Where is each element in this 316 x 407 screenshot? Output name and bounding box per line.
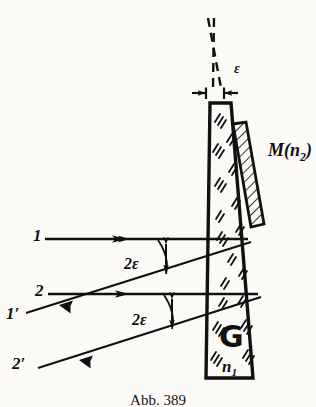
- ray-label-1: 1: [33, 227, 42, 244]
- ray-label-2: 2: [35, 282, 44, 299]
- index-subscript: 1: [231, 366, 237, 378]
- apex-angle-label: ε: [234, 62, 240, 76]
- ray-label-2-prime: 2′: [12, 355, 25, 372]
- angle-marker-lower: [164, 295, 173, 329]
- mirror-label: M(n2): [268, 141, 312, 163]
- mirror-label-close: ): [306, 140, 312, 160]
- ray-label-1-prime: 1′: [6, 305, 19, 322]
- figure-caption: Abb. 389: [0, 392, 316, 407]
- refractive-index-label: n1: [222, 358, 237, 379]
- apex-dimension-arrows: [192, 88, 238, 100]
- ray-direction-arrows: [59, 235, 129, 368]
- mirror-label-main: M(n: [268, 140, 300, 160]
- glass-label-G: G: [219, 322, 244, 352]
- figure-container: ε M(n2) 1 2 1′ 2′ 2ε 2ε G n1 Abb. 389: [0, 0, 316, 407]
- apex-construction-lines: [208, 18, 221, 88]
- optics-diagram: [0, 0, 316, 407]
- angle-label-upper: 2ε: [124, 256, 139, 272]
- angle-label-lower: 2ε: [132, 312, 147, 328]
